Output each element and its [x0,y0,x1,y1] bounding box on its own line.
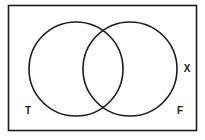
venn-diagram: T F X [0,0,205,140]
venn-diagram-canvas: T F X [0,0,205,140]
label-x: X [184,63,191,74]
label-t: T [25,105,31,116]
right-circle [83,22,177,116]
universe-rectangle [9,6,197,131]
label-f: F [177,105,183,116]
left-circle [29,22,123,116]
